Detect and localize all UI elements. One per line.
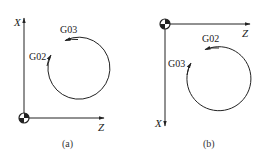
g02-label-b: G02 — [202, 33, 219, 44]
diagram-b: X Z G02 G03 (b) — [154, 19, 251, 150]
z-axis-label-b: Z — [242, 27, 249, 39]
g02-label-a: G02 — [29, 51, 46, 62]
z-axis-label-a: Z — [98, 121, 105, 133]
caption-a: (a) — [62, 138, 73, 150]
x-axis-label-a: X — [13, 16, 22, 28]
origin-icon-a — [19, 113, 29, 123]
diagram-a: X Z G03 G02 (a) — [13, 16, 110, 150]
g03-label-a: G03 — [60, 24, 77, 35]
g03-label-b: G03 — [168, 58, 185, 69]
x-axis-label-b: X — [154, 117, 163, 129]
caption-b: (b) — [203, 138, 215, 150]
diagram-canvas: X Z G03 G02 (a) X Z G02 G03 (b) — [0, 0, 263, 159]
g03-arrow-b — [187, 63, 191, 75]
circle-arc-b — [187, 47, 251, 111]
g02-arrow-b — [205, 48, 219, 50]
origin-icon-b — [160, 19, 170, 29]
circle-arc-a — [48, 37, 110, 99]
